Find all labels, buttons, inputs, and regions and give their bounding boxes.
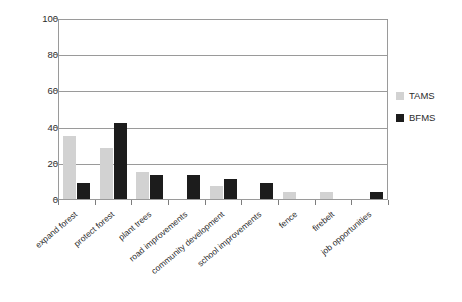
legend: TAMSBFMS <box>396 88 458 132</box>
legend-item: BFMS <box>396 110 458 126</box>
legend-swatch-icon <box>396 92 404 100</box>
bar-chart: Percentage of Responses 020406080100 exp… <box>0 0 462 302</box>
legend-item: TAMS <box>396 88 458 104</box>
legend-label: TAMS <box>409 91 435 101</box>
legend-swatch-icon <box>396 114 404 122</box>
x-axis-label-container: expand forestprotect forestplant treesro… <box>0 0 462 302</box>
legend-label: BFMS <box>409 113 435 123</box>
